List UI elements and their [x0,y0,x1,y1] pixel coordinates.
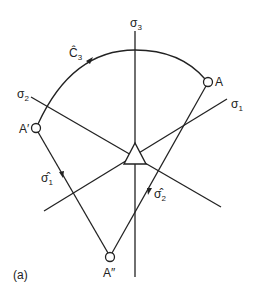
point-a-double-prime [106,253,115,262]
sigma2-label: σ2 [17,87,29,103]
sigma1-label: σ1 [231,97,243,113]
panel-label: (a) [13,268,28,282]
point-a-prime [32,124,41,133]
point-a [204,78,213,87]
sigma3-label: σ3 [130,16,142,32]
c3-rotation-arc [38,50,205,124]
sigma1-reflection-path [38,132,108,253]
sigma2-hat-operator-label: σ̂2 [154,187,166,203]
symmetry-diagram: σ3 σ1 σ2 A A′ A″ Ĉ3 σ̂1 σ̂2 (a) [0,0,255,298]
sigma2-mirror-line [31,97,221,207]
c3-operator-label: Ĉ3 [69,45,83,62]
point-a-label: A [215,75,223,89]
point-a-prime-label: A′ [19,122,30,136]
sigma2-hat-arrow-icon [147,188,152,195]
sigma1-hat-operator-label: σ̂1 [41,171,53,187]
point-a-double-prime-label: A″ [103,266,116,280]
sigma2-reflection-path [112,86,206,253]
sigma1-hat-arrow-icon [59,171,64,178]
